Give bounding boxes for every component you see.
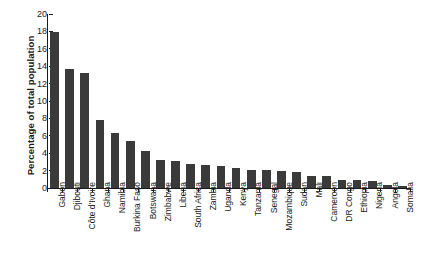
bar [111, 133, 120, 188]
x-axis-label: Gabon [58, 182, 67, 208]
x-axis-label: Burkina Faso [133, 182, 142, 232]
y-axis-tick-label: 2 [21, 166, 47, 176]
x-axis-label: Nigeria [375, 182, 384, 209]
x-axis-label: Côte d'Ivoire [88, 182, 97, 229]
y-axis-tick-label: 18 [21, 26, 47, 36]
x-axis-label: Zambia [209, 182, 218, 210]
x-axis-tick-mark [47, 188, 48, 192]
y-axis-tick-label: 20 [21, 9, 47, 19]
x-axis-label: Ghana [103, 182, 112, 208]
x-axis-label: Liberia [179, 182, 188, 208]
x-axis-label: Mozambique [285, 182, 294, 231]
x-axis-label: Cameroon [330, 182, 339, 222]
x-axis-label: DR Congo [345, 182, 354, 222]
x-axis-label: Somalia [406, 182, 415, 213]
x-axis-label: Zimbabwe [164, 182, 173, 221]
bar-chart: Percentage of total population 024681012… [0, 0, 425, 266]
x-axis-label: Ethiopia [360, 182, 369, 213]
bar [80, 73, 89, 188]
x-axis-label: Mali [315, 182, 324, 198]
x-axis-label: Tanzania [254, 182, 263, 216]
plot-area: 02468101214161820 [47, 14, 410, 188]
bar [96, 120, 105, 188]
y-axis-tick-label: 12 [21, 79, 47, 89]
bars-layer [47, 14, 410, 188]
y-axis-tick-label: 8 [21, 113, 47, 123]
y-axis-tick-label: 4 [21, 148, 47, 158]
y-axis-tick-label: 0 [21, 183, 47, 193]
bar [65, 69, 74, 188]
x-axis-label: Namibia [118, 182, 127, 213]
y-axis-tick-label: 6 [21, 131, 47, 141]
x-axis-label: Senegal [270, 182, 279, 213]
bar [126, 141, 135, 188]
x-axis-label: Kenya [239, 182, 248, 206]
y-axis-tick-label: 14 [21, 61, 47, 71]
x-axis-label: Djibouti [73, 182, 82, 210]
x-axis-label: Botswana [149, 182, 158, 219]
y-axis-tick-label: 10 [21, 96, 47, 106]
x-axis-label: Sudan [300, 182, 309, 207]
x-axis-label: South Africa [194, 182, 203, 228]
x-axis-label: Angola [391, 182, 400, 208]
y-axis-tick-label: 16 [21, 44, 47, 54]
bar [50, 32, 59, 188]
x-axis-label: Uganda [224, 182, 233, 212]
